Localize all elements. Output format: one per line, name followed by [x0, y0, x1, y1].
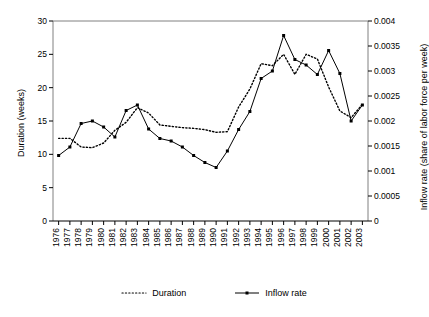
- y-axis-left-tick-label: 30: [38, 16, 48, 26]
- x-axis-tick-label: 1992: [231, 228, 241, 247]
- x-axis-tick-label: 1986: [163, 228, 173, 247]
- series-marker: [158, 137, 161, 140]
- y-axis-right-tick-label: 0.003: [374, 66, 396, 76]
- x-axis-tick-label: 1990: [208, 228, 218, 247]
- x-axis-tick-label: 1985: [152, 228, 162, 247]
- legend-swatch-dotted-icon: [121, 288, 147, 298]
- series-marker: [338, 72, 341, 75]
- x-axis-tick-label: 1999: [309, 228, 319, 247]
- y-axis-right-ticks: 00.00050.0010.00150.0020.00250.0030.0035…: [368, 16, 400, 226]
- series-marker: [282, 34, 285, 37]
- series-marker: [170, 140, 173, 143]
- x-axis-tick-label: 2002: [343, 228, 353, 247]
- y-axis-right-tick-label: 0.0025: [374, 91, 400, 101]
- y-axis-right-tick-label: 0.0035: [374, 41, 400, 51]
- y-axis-left-tick-label: 0: [42, 216, 47, 226]
- x-axis-tick-label: 1994: [253, 228, 263, 247]
- series-marker: [80, 122, 83, 125]
- series-marker: [68, 146, 71, 149]
- x-axis-tick-label: 1995: [264, 228, 274, 247]
- series-marker: [361, 104, 364, 107]
- y-axis-left-tick-label: 10: [38, 149, 48, 159]
- series-marker: [136, 104, 139, 107]
- x-axis-tick-label: 1976: [51, 228, 61, 247]
- x-axis-tick-label: 1978: [73, 228, 83, 247]
- y-axis-left-tick-label: 25: [38, 49, 48, 59]
- series-marker: [293, 58, 296, 61]
- y-axis-right-title: Inflow rate (share of labor force per we…: [419, 42, 429, 212]
- y-axis-right-tick-label: 0.001: [374, 166, 396, 176]
- y-axis-right-tick-label: 0: [374, 216, 379, 226]
- x-axis-tick-label: 2003: [354, 228, 364, 247]
- x-axis-tick-label: 1980: [96, 228, 106, 247]
- series-marker: [125, 109, 128, 112]
- series-marker: [91, 120, 94, 123]
- legend-label-inflow-rate: Inflow rate: [265, 288, 307, 298]
- x-axis-tick-label: 1989: [197, 228, 207, 247]
- y-axis-left-ticks: 051015202530: [38, 16, 53, 226]
- series-marker: [226, 150, 229, 153]
- y-axis-right-tick-label: 0.0005: [374, 191, 400, 201]
- series-line-inflow-rate: [59, 36, 363, 168]
- x-axis-tick-label: 1996: [276, 228, 286, 247]
- series-marker: [327, 49, 330, 52]
- legend-item-inflow-rate: Inflow rate: [234, 288, 307, 298]
- legend-swatch-solid-marker-icon: [234, 288, 260, 298]
- y-axis-left-tick-label: 15: [38, 116, 48, 126]
- x-axis-tick-label: 1993: [242, 228, 252, 247]
- x-axis-tick-label: 2001: [332, 228, 342, 247]
- series-marker: [215, 166, 218, 169]
- x-axis-tick-label: 1981: [107, 228, 117, 247]
- series-marker: [147, 128, 150, 131]
- legend-label-duration: Duration: [152, 288, 186, 298]
- series-marker: [316, 73, 319, 76]
- x-axis-tick-label: 1983: [129, 228, 139, 247]
- series-marker: [237, 128, 240, 131]
- x-axis-tick-label: 1984: [141, 228, 151, 247]
- series-marker: [305, 64, 308, 67]
- x-axis-tick-label: 1988: [186, 228, 196, 247]
- y-axis-right-tick-label: 0.0015: [374, 141, 400, 151]
- series-marker: [248, 110, 251, 113]
- data-series-group: [57, 34, 364, 169]
- series-marker: [113, 136, 116, 139]
- y-axis-left-title: Duration (weeks): [16, 48, 26, 198]
- axis-lines: [53, 21, 368, 221]
- series-marker: [181, 146, 184, 149]
- series-marker: [192, 154, 195, 157]
- x-axis-tick-label: 1977: [62, 228, 72, 247]
- series-marker: [203, 161, 206, 164]
- x-axis-tick-label: 1991: [219, 228, 229, 247]
- legend-item-duration: Duration: [121, 288, 186, 298]
- series-marker: [102, 126, 105, 129]
- series-marker: [350, 120, 353, 123]
- series-line-duration: [59, 54, 363, 147]
- y-axis-left-tick-label: 5: [42, 183, 47, 193]
- y-axis-right-tick-label: 0.002: [374, 116, 396, 126]
- x-axis-tick-label: 2000: [321, 228, 331, 247]
- x-axis-tick-label: 1987: [174, 228, 184, 247]
- chart-legend: Duration Inflow rate: [0, 288, 428, 298]
- series-marker: [57, 154, 60, 157]
- x-axis-tick-label: 1998: [298, 228, 308, 247]
- x-axis-ticks: 1976197719781979198019811982198319841985…: [51, 221, 365, 247]
- y-axis-left-tick-label: 20: [38, 83, 48, 93]
- series-marker: [260, 77, 263, 80]
- series-marker: [271, 70, 274, 73]
- x-axis-tick-label: 1979: [84, 228, 94, 247]
- x-axis-tick-label: 1982: [118, 228, 128, 247]
- x-axis-tick-label: 1997: [287, 228, 297, 247]
- y-axis-right-tick-label: 0.004: [374, 16, 396, 26]
